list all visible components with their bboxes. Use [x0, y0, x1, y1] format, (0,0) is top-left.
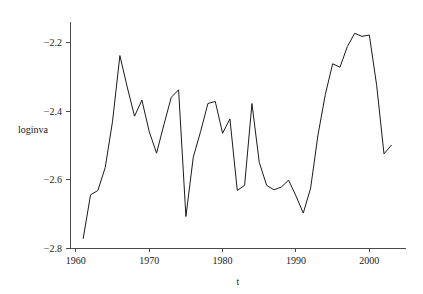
x-tick-label: 2000: [359, 255, 379, 266]
y-tick-label: −2.8: [44, 243, 62, 254]
line-chart-canvas: −2.2−2.4−2.6−2.8 19601970198019902000 lo…: [0, 0, 423, 294]
x-axis-title: t: [237, 276, 240, 287]
y-ticks-group: −2.2−2.4−2.6−2.8: [44, 37, 70, 253]
x-tick-label: 1980: [213, 255, 233, 266]
chart-figure: −2.2−2.4−2.6−2.8 19601970198019902000 lo…: [0, 0, 423, 294]
x-ticks-group: 19601970198019902000: [66, 248, 379, 266]
x-tick-label: 1990: [286, 255, 306, 266]
y-tick-label: −2.4: [44, 106, 62, 117]
series-group: [83, 33, 391, 238]
x-tick-label: 1960: [66, 255, 86, 266]
y-tick-label: −2.2: [44, 37, 62, 48]
y-axis-title: loginva: [18, 124, 49, 135]
series-line-loginva: [83, 33, 391, 238]
y-tick-label: −2.6: [44, 174, 62, 185]
x-tick-label: 1970: [139, 255, 159, 266]
